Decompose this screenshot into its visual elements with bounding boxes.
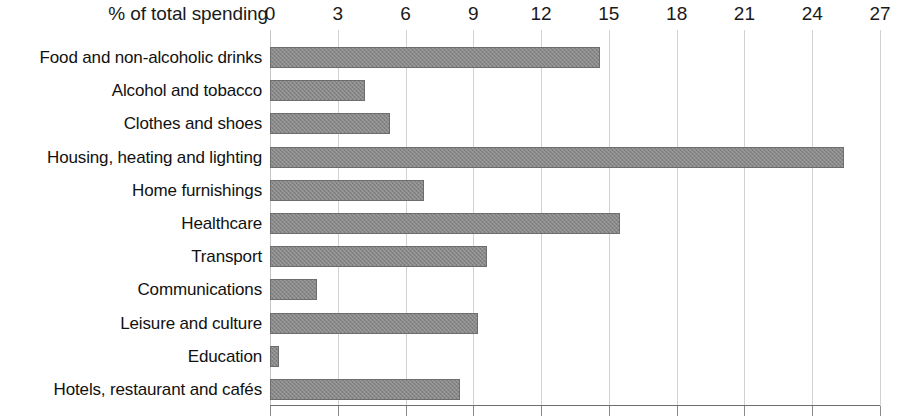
category-label: Transport	[0, 246, 262, 267]
gridline-18	[677, 30, 678, 406]
tickmark-21	[744, 406, 745, 416]
bar	[270, 113, 390, 134]
tickmark-6	[406, 406, 407, 416]
tickmark-18	[677, 406, 678, 416]
x-axis-title: % of total spending	[0, 3, 268, 25]
tickmark-9	[473, 406, 474, 416]
tickmark-0	[270, 406, 271, 416]
tickmark-15	[609, 406, 610, 416]
bar	[270, 213, 620, 234]
category-label: Clothes and shoes	[0, 113, 262, 134]
x-tick-label-18: 18	[666, 3, 687, 25]
category-label: Healthcare	[0, 213, 262, 234]
bar	[270, 379, 460, 400]
x-tick-label-6: 6	[400, 3, 411, 25]
x-tick-label-15: 15	[598, 3, 619, 25]
bar	[270, 246, 487, 267]
category-label: Alcohol and tobacco	[0, 80, 262, 101]
gridline-27	[880, 30, 881, 406]
x-tick-label-21: 21	[734, 3, 755, 25]
x-tick-label-24: 24	[802, 3, 823, 25]
x-tick-label-27: 27	[869, 3, 890, 25]
tickmark-24	[812, 406, 813, 416]
bar	[270, 313, 478, 334]
bar	[270, 180, 424, 201]
category-label: Education	[0, 346, 262, 367]
category-label: Hotels, restaurant and cafés	[0, 379, 262, 400]
category-label: Communications	[0, 279, 262, 300]
gridline-24	[812, 30, 813, 406]
x-tick-label-12: 12	[531, 3, 552, 25]
category-label: Housing, heating and lighting	[0, 147, 262, 168]
bar	[270, 80, 365, 101]
category-label: Food and non-alcoholic drinks	[0, 47, 262, 68]
bar	[270, 346, 279, 367]
gridline-21	[744, 30, 745, 406]
tickmark-27	[880, 406, 881, 416]
category-label: Home furnishings	[0, 180, 262, 201]
tickmark-3	[338, 406, 339, 416]
x-tick-label-9: 9	[468, 3, 479, 25]
tickmark-12	[541, 406, 542, 416]
x-tick-label-0: 0	[265, 3, 276, 25]
bar-chart: % of total spending 0369121518212427 Foo…	[0, 0, 907, 416]
bar	[270, 47, 600, 68]
plot-area	[270, 30, 880, 406]
category-label: Leisure and culture	[0, 313, 262, 334]
x-axis-line	[270, 405, 880, 406]
x-tick-label-3: 3	[332, 3, 343, 25]
bar	[270, 147, 844, 168]
bar	[270, 279, 317, 300]
